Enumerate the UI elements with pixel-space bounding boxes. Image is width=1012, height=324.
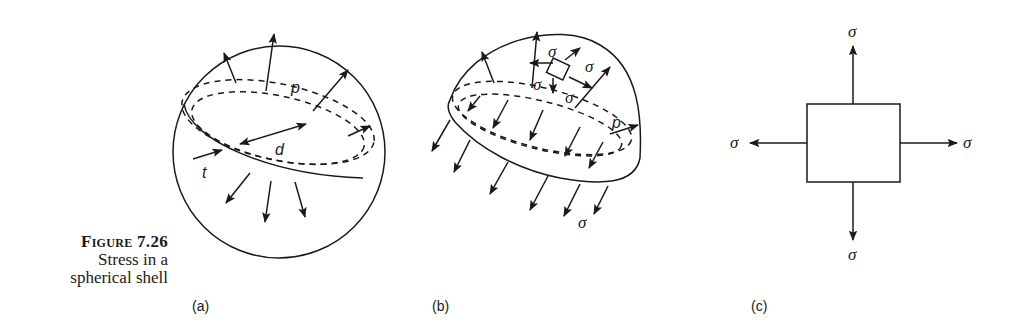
symbol-p-b: p: [611, 114, 621, 131]
symbol-sigma-b3: σ: [533, 75, 542, 94]
symbol-sigma-left: σ: [730, 133, 739, 152]
panel-b-hemisphere: [432, 32, 641, 216]
symbol-sigma-b2: σ: [585, 57, 594, 76]
symbol-t: t: [202, 164, 207, 181]
symbol-sigma-right: σ: [963, 133, 972, 152]
symbol-d: d: [275, 141, 285, 158]
diagram-canvas: p d t σ σ σ σ p σ: [0, 0, 1012, 324]
symbol-sigma-b5: σ: [578, 213, 587, 232]
panel-c-element: [750, 46, 957, 240]
symbol-sigma-b1: σ: [548, 42, 557, 61]
symbol-p-a: p: [290, 79, 300, 96]
symbol-sigma-b4: σ: [565, 88, 574, 107]
symbol-sigma-bottom: σ: [848, 245, 857, 264]
symbol-sigma-top: σ: [848, 22, 857, 41]
